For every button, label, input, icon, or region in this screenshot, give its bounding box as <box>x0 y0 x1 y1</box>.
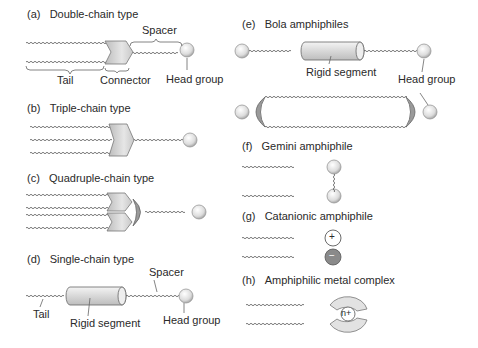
rigid-segment <box>66 287 126 305</box>
panel-g-diagram <box>242 230 341 265</box>
spacer-brace <box>130 39 182 46</box>
tail-chain <box>26 61 116 63</box>
panel-h-title: (h) Amphiphilic metal complex <box>242 274 395 286</box>
spacer-label: Spacer <box>149 266 184 278</box>
rigid-segment-label: Rigid segment <box>70 317 140 329</box>
head-group <box>423 105 437 119</box>
panel-b-title: (b) Triple-chain type <box>27 102 131 114</box>
panel-c-title: (c) Quadruple-chain type <box>27 172 154 184</box>
head-group <box>179 289 193 303</box>
panel-g-title: (g) Catanionic amphiphile <box>242 210 373 222</box>
panel-a-diagram <box>26 39 194 74</box>
panel-f-title: (f) Gemini amphiphile <box>242 140 353 152</box>
tail-label: Tail <box>57 74 74 86</box>
panel-f-diagram <box>242 160 341 203</box>
metal-ion-label: n+ <box>341 308 351 318</box>
plus-sign: + <box>329 231 335 242</box>
connector-shape <box>107 213 132 231</box>
head-group <box>235 44 249 58</box>
panel-d-diagram <box>26 280 193 316</box>
head-group <box>235 105 249 119</box>
head-group-label: Head group <box>163 314 221 326</box>
panel-b-diagram <box>30 124 197 156</box>
connector-label: Connector <box>100 74 151 86</box>
cap-shape <box>406 97 415 127</box>
spacer-label: Spacer <box>142 24 177 36</box>
panel-a-title: (a) Double-chain type <box>27 8 138 20</box>
connector-shape <box>107 193 132 211</box>
rigid-segment-label: Rigid segment <box>306 66 376 78</box>
head-group-label: Head group <box>166 73 224 85</box>
head-group <box>327 189 341 203</box>
panel-c-diagram <box>26 193 206 231</box>
panel-e-title: (e) Bola amphiphiles <box>242 18 348 30</box>
rigid-segment <box>301 42 364 60</box>
panel-d-title: (d) Single-chain type <box>27 253 134 265</box>
head-group-label: Head group <box>398 73 456 85</box>
connector-shape <box>109 124 134 156</box>
head-group <box>417 44 431 58</box>
head-group <box>327 160 341 174</box>
tail-label: Tail <box>33 308 50 320</box>
minus-sign: − <box>329 250 335 261</box>
cap-shape <box>133 199 141 226</box>
connector-shape <box>105 41 133 64</box>
spacer-chain <box>132 52 178 54</box>
tail-chain <box>26 42 116 44</box>
head-group <box>192 205 206 219</box>
connector-brace <box>105 68 129 73</box>
cap-shape <box>256 97 265 127</box>
tail-brace <box>26 66 104 74</box>
head-group <box>183 133 197 147</box>
